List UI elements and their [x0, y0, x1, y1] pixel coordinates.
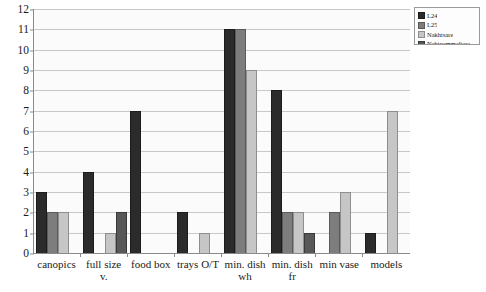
bar — [36, 192, 47, 253]
legend-swatch-icon — [418, 22, 425, 29]
plot-area: 0123456789101112 — [33, 9, 410, 254]
x-axis-label: food box — [127, 258, 174, 282]
bar-group — [222, 9, 269, 253]
x-axis-label: canopics — [33, 258, 80, 282]
y-tick-label: 0 — [23, 248, 29, 260]
legend-item[interactable]: L25 — [418, 21, 477, 30]
legend-swatch-icon — [418, 41, 425, 46]
y-tick-label: 1 — [23, 228, 29, 240]
x-tick-mark — [362, 253, 363, 257]
legend-item[interactable]: Nakhtsare — [418, 30, 477, 39]
x-tick-mark — [80, 253, 81, 257]
x-axis-label: min. dish wh — [222, 258, 269, 282]
chart-legend: L24L25NakhtsareNehtyemmeltere — [414, 7, 480, 45]
x-axis-label: models — [363, 258, 410, 282]
bar-group — [316, 9, 363, 253]
bar — [282, 212, 293, 253]
bar — [47, 212, 58, 253]
y-tick-label: 12 — [18, 4, 30, 16]
legend-item[interactable]: L24 — [418, 11, 477, 20]
bar-group — [34, 9, 81, 253]
bar — [340, 192, 351, 253]
y-tick-label: 3 — [23, 187, 29, 199]
y-tick-label: 11 — [18, 25, 29, 37]
legend-label: L24 — [427, 12, 437, 20]
bar — [246, 70, 257, 253]
x-axis-label: trays O/T — [174, 258, 221, 282]
x-axis-label: full size v. — [80, 258, 127, 282]
bar — [177, 212, 188, 253]
bar-group — [81, 9, 128, 253]
legend-label: Nakhtsare — [427, 31, 453, 39]
bar-group — [363, 9, 410, 253]
bar — [116, 212, 127, 253]
y-tick-label: 2 — [23, 208, 29, 220]
bar-group — [128, 9, 175, 253]
x-tick-mark — [268, 253, 269, 257]
bar — [271, 90, 282, 253]
legend-swatch-icon — [418, 12, 425, 19]
y-tick-mark — [30, 254, 34, 255]
bar — [235, 29, 246, 253]
bar-group — [269, 9, 316, 253]
bar — [224, 29, 235, 253]
x-axis-label: min. dish fr — [269, 258, 316, 282]
y-tick-label: 8 — [23, 86, 29, 98]
y-tick-label: 7 — [23, 106, 29, 118]
bar — [387, 111, 398, 253]
bar — [365, 233, 376, 253]
y-tick-label: 6 — [23, 126, 29, 138]
bar-groups — [34, 9, 410, 253]
x-axis-label: min vase — [316, 258, 363, 282]
legend-label: Nehtyemmeltere — [427, 40, 470, 45]
x-axis-labels: canopicsfull size v.food boxtrays O/Tmin… — [33, 258, 410, 282]
bar — [293, 212, 304, 253]
bar — [199, 233, 210, 253]
x-tick-mark — [315, 253, 316, 257]
legend-swatch-icon — [418, 31, 425, 38]
y-tick-label: 10 — [18, 45, 30, 57]
bar-group — [175, 9, 222, 253]
legend-item[interactable]: Nehtyemmeltere — [418, 40, 477, 46]
bar — [83, 172, 94, 253]
bar-chart: 0123456789101112 canopicsfull size v.foo… — [0, 0, 486, 292]
y-tick-label: 9 — [23, 65, 29, 77]
legend-label: L25 — [427, 21, 437, 29]
bar — [105, 233, 116, 253]
x-tick-mark — [127, 253, 128, 257]
bar — [304, 233, 315, 253]
y-tick-label: 5 — [23, 147, 29, 159]
x-tick-mark — [174, 253, 175, 257]
bar — [329, 212, 340, 253]
bar — [130, 111, 141, 253]
x-tick-mark — [221, 253, 222, 257]
gridline: 0 — [34, 253, 410, 254]
bar — [58, 212, 69, 253]
y-tick-label: 4 — [23, 167, 29, 179]
